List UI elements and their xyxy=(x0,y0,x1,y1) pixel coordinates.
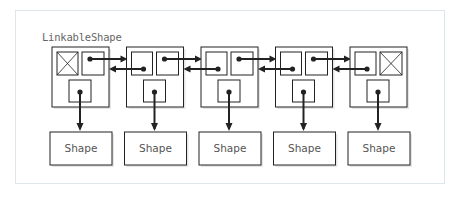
shape-box-label: Shape xyxy=(199,142,261,154)
arrowhead-icon xyxy=(77,123,84,131)
next-pointer-cell xyxy=(231,52,253,75)
next-pointer-cell xyxy=(306,52,328,75)
shape-box-label: Shape xyxy=(50,142,112,154)
shape-box-label: Shape xyxy=(348,142,410,154)
prev-pointer-cell xyxy=(132,52,153,75)
shape-box-label: Shape xyxy=(274,142,336,154)
arrowhead-icon xyxy=(375,123,382,131)
arrowhead-icon xyxy=(226,123,233,131)
prev-pointer-cell xyxy=(355,52,376,75)
prev-pointer-cell xyxy=(281,52,302,75)
prev-pointer-cell xyxy=(206,52,227,75)
linked-list-diagram xyxy=(0,0,462,202)
next-pointer-cell xyxy=(82,52,104,75)
shape-box-label: Shape xyxy=(125,142,187,154)
next-pointer-cell xyxy=(157,52,179,75)
arrowhead-icon xyxy=(300,123,307,131)
arrowhead-icon xyxy=(151,123,158,131)
